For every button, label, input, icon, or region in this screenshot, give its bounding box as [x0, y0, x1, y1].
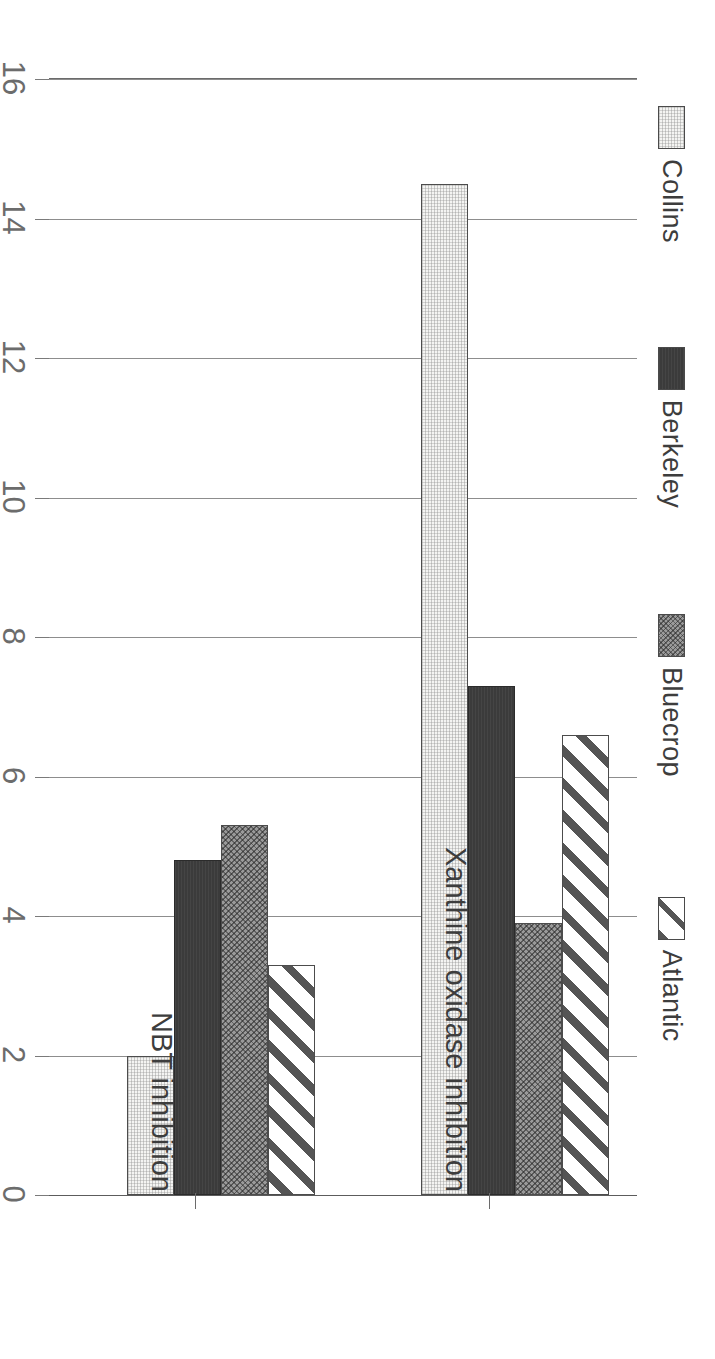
value-tick-6 [35, 777, 49, 778]
value-tick-10 [35, 498, 49, 499]
category-label-nbt-inhibition: NBT inhibition [145, 1012, 178, 1192]
value-tick-2 [35, 1056, 49, 1057]
value-tick-label-0: 0 [0, 1185, 31, 1202]
rotated-figure-wrapper: Collins Berkeley Bluecrop Atlantic 161 [0, 0, 715, 1359]
value-tick-4 [35, 916, 49, 917]
value-tick-label-12: 12 [0, 340, 31, 374]
value-tick-8 [35, 637, 49, 638]
value-tick-14 [35, 219, 49, 220]
figure-page: Collins Berkeley Bluecrop Atlantic 161 [0, 0, 715, 1359]
value-tick-label-6: 6 [0, 767, 31, 784]
value-tick-16 [35, 79, 49, 80]
value-tick-label-10: 10 [0, 479, 31, 513]
value-tick-label-16: 16 [0, 61, 31, 95]
value-tick-label-8: 8 [0, 627, 31, 644]
value-tick-label-14: 14 [0, 200, 31, 234]
category-label-xanthine-oxidase-inhibition: Xanthine oxidase inhibition [439, 847, 472, 1192]
value-tick-12 [35, 358, 49, 359]
value-axis-tick-labels: 1614121086420 [0, 78, 31, 1196]
bar-chart-figure: Collins Berkeley Bluecrop Atlantic 161 [0, 0, 715, 1359]
value-tick-label-4: 4 [0, 906, 31, 923]
value-tick-0 [35, 1195, 49, 1196]
value-tick-label-2: 2 [0, 1046, 31, 1063]
category-axis-labels: Xanthine oxidase inhibitionNBT inhibitio… [127, 78, 715, 1196]
